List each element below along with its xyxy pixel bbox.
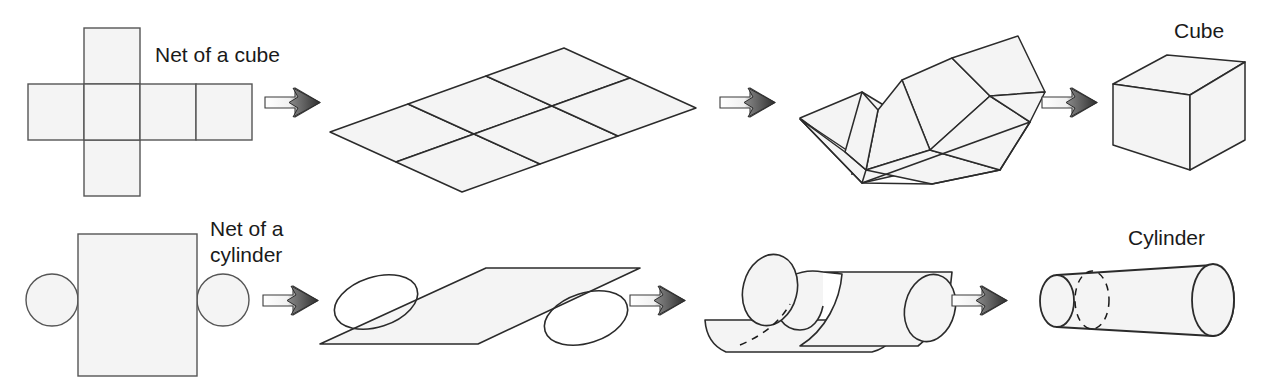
cube-net-face-back (196, 84, 252, 140)
diagram-canvas: Net of a cube (0, 0, 1270, 386)
cylinder-cap-right (1192, 264, 1234, 336)
cylinder-cap-left (1040, 275, 1074, 327)
cube-net-face-top (84, 28, 140, 84)
net-of-a-cylinder-label-line2: cylinder (210, 243, 282, 266)
cube-label: Cube (1174, 19, 1224, 42)
cube-net-face-front (84, 84, 140, 140)
nets-to-solids-diagram: Net of a cube (0, 0, 1270, 386)
cylinder-net-circle-right (197, 274, 249, 326)
cylinder-net-rectangle (78, 234, 197, 376)
cube-net-face-right (140, 84, 196, 140)
cylinder-solid (1040, 264, 1234, 336)
cube-net-face-left (28, 84, 84, 140)
net-of-a-cylinder-label-line1: Net of a (210, 217, 284, 240)
cube-net-face-bottom (84, 140, 140, 196)
cylinder-net-circle-left (26, 274, 78, 326)
cylinder-label: Cylinder (1128, 226, 1205, 249)
net-of-a-cube-label: Net of a cube (155, 43, 280, 66)
